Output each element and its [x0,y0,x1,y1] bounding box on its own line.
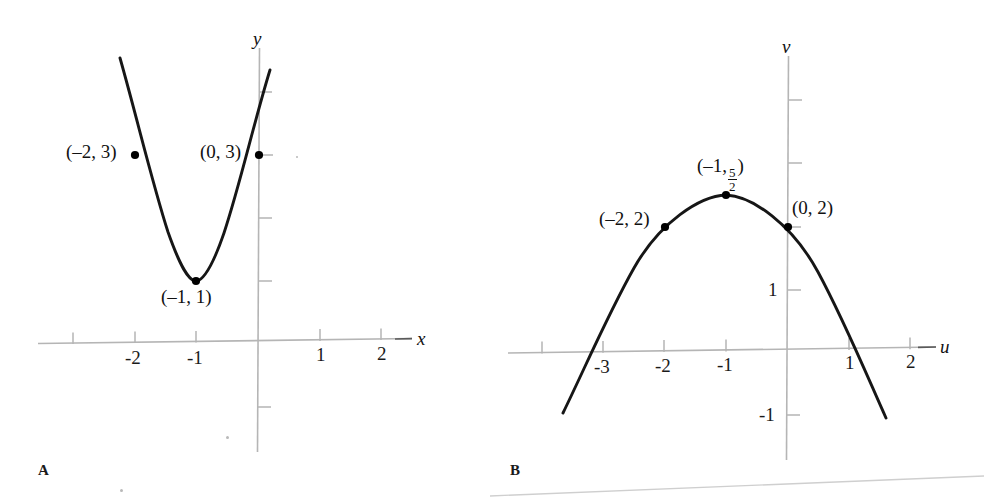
scan-speck-3 [296,156,298,158]
panel-b-utick-label--2: -2 [655,355,671,377]
panel-a-label-point--2-3: (–2, 3) [66,141,117,163]
panel-a-label-point--1-1: (–1, 1) [161,286,212,308]
panel-a-xtick-label--2: -2 [125,347,141,369]
scan-speck-1 [226,436,229,439]
panel-b-utick-label--1: -1 [717,354,733,376]
panel-b-point-0-2 [784,223,792,231]
panel-a-x-axis [38,339,412,344]
fraction-numerator: 5 [728,166,737,179]
panel-a-xtick-label-2: 2 [377,343,387,365]
graph-svg [0,0,984,502]
panel-a-point--2-3 [131,151,139,159]
fraction-denominator: 2 [728,179,737,193]
panel-a-x-axis-label: x [417,328,425,350]
panel-a-y-axis-label: y [253,28,261,50]
panel-b-point--2-2 [661,223,669,231]
panel-b-vertex-suffix: ) [738,155,744,176]
panel-b-utick-label-2: 2 [906,351,916,373]
panel-b-label-point--2-2: (–2, 2) [599,208,650,230]
panel-b-y-axis-label: v [782,36,790,58]
panel-b-x-axis-label: u [940,336,950,358]
panel-a-letter: A [38,462,49,479]
panel-b-v-axis [787,56,789,460]
panel-a-point--1-1 [192,277,200,285]
panel-b-axes [508,56,936,460]
panel-b-vtick-label--1: -1 [759,404,775,426]
figure-canvas: (–2, 3) (0, 3) (–1, 1) -2 -1 1 2 x y A (… [0,0,984,502]
panel-a-parabola [120,58,270,282]
panel-a-xtick-label-1: 1 [316,344,326,366]
panel-b-vertex-prefix: (–1, [697,155,727,176]
panel-b-vtick-label-1: 1 [768,279,778,301]
scan-speck-2 [120,489,123,492]
panel-b-x-axis [508,347,936,353]
panel-a-point-0-3 [255,151,263,159]
panel-b-label-point-vertex: (–1,52) [697,155,744,193]
panel-b-utick-label--3: -3 [594,356,610,378]
panel-b-letter: B [510,462,520,479]
panel-a-xtick-label--1: -1 [187,347,203,369]
scan-edge-line [490,476,984,496]
panel-a-axes [38,48,412,452]
panel-a-label-point-0-3: (0, 3) [200,141,241,163]
panel-b-utick-label-1: 1 [845,352,855,374]
panel-b-vertex-fraction: 52 [728,166,737,193]
panel-b-label-point-0-2: (0, 2) [792,197,833,219]
